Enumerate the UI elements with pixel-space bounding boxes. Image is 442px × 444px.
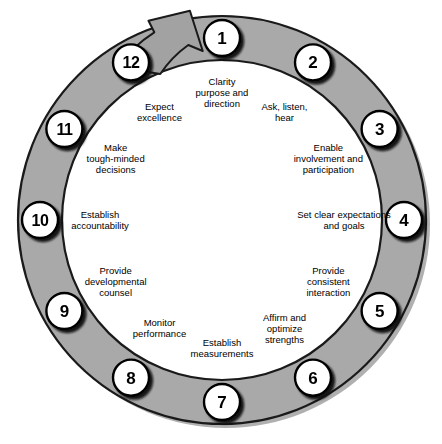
step-badge-circle: [386, 202, 422, 238]
step-badge-circle: [113, 360, 149, 396]
step-badge-1[interactable]: 1: [204, 20, 240, 56]
cycle-ring-diagram: 123456789101112 Claritypurpose anddirect…: [0, 0, 442, 444]
diagram-canvas: 123456789101112 Claritypurpose anddirect…: [0, 0, 442, 444]
step-badge-circle: [204, 384, 240, 420]
step-badge-4[interactable]: 4: [386, 202, 422, 238]
step-badge-2[interactable]: 2: [295, 44, 331, 80]
step-badge-circle: [46, 111, 82, 147]
step-badge-circle: [362, 293, 398, 329]
step-badge-circle: [113, 44, 149, 80]
step-badge-12[interactable]: 12: [113, 44, 149, 80]
step-badge-7[interactable]: 7: [204, 384, 240, 420]
step-badge-circle: [295, 360, 331, 396]
step-badge-circle: [295, 44, 331, 80]
step-badge-5[interactable]: 5: [362, 293, 398, 329]
step-badge-circle: [22, 202, 58, 238]
step-badge-10[interactable]: 10: [22, 202, 58, 238]
step-badge-circle: [46, 293, 82, 329]
step-badge-11[interactable]: 11: [46, 111, 82, 147]
step-badge-9[interactable]: 9: [46, 293, 82, 329]
step-badge-circle: [204, 20, 240, 56]
step-badge-3[interactable]: 3: [362, 111, 398, 147]
step-badge-6[interactable]: 6: [295, 360, 331, 396]
ring-band: [18, 16, 426, 424]
step-badge-8[interactable]: 8: [113, 360, 149, 396]
step-badge-circle: [362, 111, 398, 147]
